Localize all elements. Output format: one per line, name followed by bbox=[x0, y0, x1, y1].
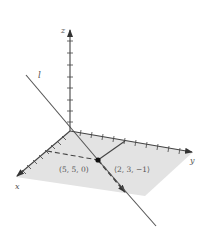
y-axis-label: y bbox=[189, 156, 195, 165]
3d-line-plane-diagram: z y x bbox=[0, 0, 209, 242]
point-label: (5, 5, 0) bbox=[59, 165, 89, 174]
direction-vector-label: ⟨2, 3, −1⟩ bbox=[114, 165, 150, 174]
point-on-line bbox=[95, 157, 100, 162]
line-label: l bbox=[38, 70, 41, 80]
x-axis-label: x bbox=[15, 182, 20, 191]
xy-plane bbox=[16, 131, 193, 196]
z-axis-label: z bbox=[60, 26, 66, 35]
z-axis bbox=[67, 30, 73, 131]
